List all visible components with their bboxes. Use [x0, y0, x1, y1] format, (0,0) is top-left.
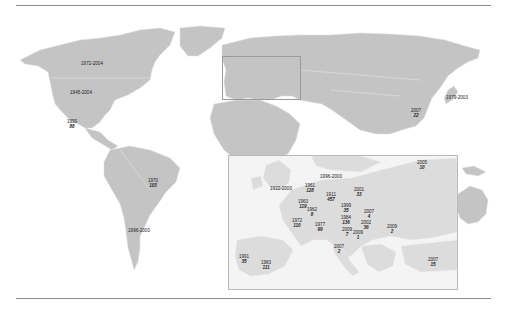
australia [456, 186, 488, 224]
map-label-china: 200722 [411, 108, 421, 118]
map-label-usa: 1945-2004 [70, 90, 92, 95]
label-count: 15 [428, 262, 438, 267]
label-count: 8 [307, 212, 317, 217]
label-years: 1996-2000 [320, 174, 342, 179]
map-label-spain: 1983111 [261, 260, 271, 270]
africa [210, 100, 300, 162]
label-years: 1922-2000 [270, 186, 292, 191]
map-label-argentina: 1996-2000 [128, 228, 150, 233]
label-count: 1 [353, 235, 363, 240]
label-count: 22 [411, 113, 421, 118]
label-years: 1996-2000 [128, 228, 150, 233]
greenland [180, 26, 225, 56]
map-label-slovenia: 20097 [342, 227, 352, 237]
map-label-slovakia: 20074 [364, 209, 374, 219]
map-label-croatia: 20091 [353, 230, 363, 240]
label-years: 1945-2004 [70, 90, 92, 95]
map-label-czech: 199935 [341, 203, 351, 213]
label-count: 33 [354, 192, 364, 197]
label-years: 1972-2004 [81, 61, 103, 66]
label-count: 111 [261, 265, 271, 270]
map-label-austria: 1984136 [341, 215, 351, 225]
label-count: 4 [364, 214, 374, 219]
south-america [104, 146, 180, 270]
label-count: 136 [341, 220, 351, 225]
map-label-italy: 20072 [334, 244, 344, 254]
map-label-russia: 200510 [417, 160, 427, 170]
bottom-rule [16, 298, 491, 299]
label-count: 2 [334, 249, 344, 254]
map-label-switzerland: 197799 [315, 222, 325, 232]
label-count: 88 [67, 124, 77, 129]
label-count: 110 [292, 223, 302, 228]
map-label-brazil: 1970103 [148, 178, 158, 188]
label-count: 2 [387, 229, 397, 234]
map-label-denmark-sweden: 1996-2000 [320, 174, 342, 179]
label-count: 457 [326, 197, 336, 202]
label-count: 7 [342, 232, 352, 237]
map-label-netherlands: 1961128 [305, 183, 315, 193]
map-label-mexico: 199088 [67, 119, 77, 129]
map-label-poland: 200133 [354, 187, 364, 197]
map-label-canada: 1972-2004 [81, 61, 103, 66]
map-label-japan: 1979-2003 [446, 95, 468, 100]
label-count: 99 [315, 227, 325, 232]
map-label-portugal: 199135 [239, 254, 249, 264]
label-count: 128 [305, 188, 315, 193]
label-count: 10 [417, 165, 427, 170]
label-count: 35 [239, 259, 249, 264]
map-label-romania: 20092 [387, 224, 397, 234]
europe-locator-box [222, 56, 301, 100]
label-count: 35 [341, 208, 351, 213]
map-label-germany: 1911457 [326, 192, 336, 202]
map-label-hungary: 200236 [361, 220, 371, 230]
map-label-turkey: 200715 [428, 257, 438, 267]
new-guinea [462, 166, 486, 176]
map-label-france: 1972110 [292, 218, 302, 228]
map-label-luxembourg: 19628 [307, 207, 317, 217]
central-america [85, 128, 118, 150]
label-count: 103 [148, 183, 158, 188]
label-years: 1979-2003 [446, 95, 468, 100]
map-label-uk: 1922-2000 [270, 186, 292, 191]
